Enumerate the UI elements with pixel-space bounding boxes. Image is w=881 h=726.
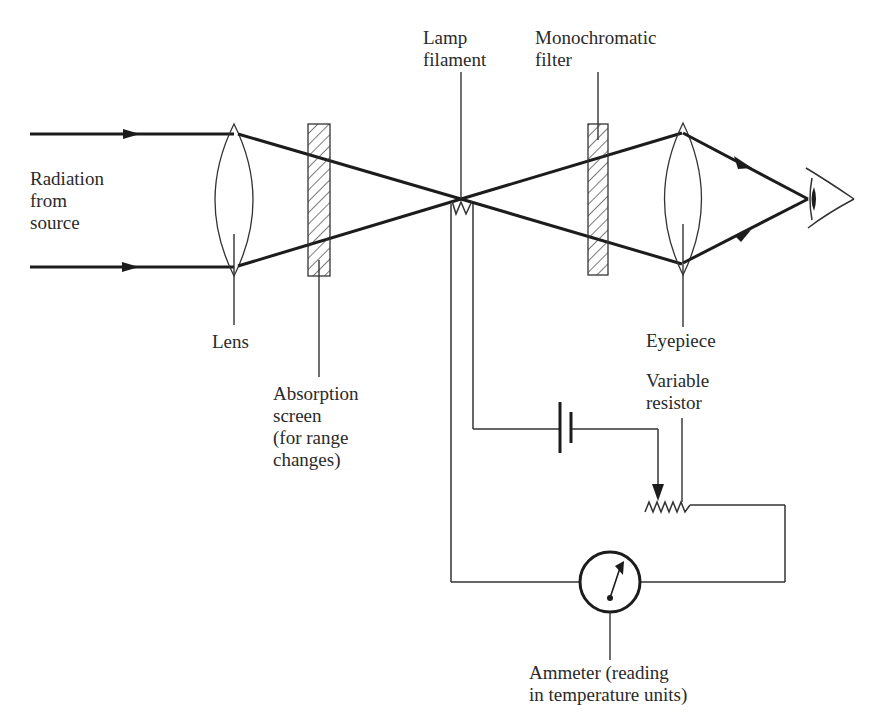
label-line: Lens — [212, 331, 249, 353]
label-line: filament — [423, 49, 486, 71]
label-line: filter — [535, 49, 656, 71]
optical-pyrometer-diagram: Radiation from source Lens Absorption sc… — [0, 0, 881, 726]
label-line: Ammeter (reading — [529, 662, 687, 684]
label-lens: Lens — [212, 331, 249, 353]
label-line: screen — [273, 405, 359, 427]
label-line: (for range — [273, 427, 359, 449]
label-line: Radiation — [30, 168, 104, 190]
converging-rays — [238, 134, 461, 266]
ammeter-icon — [451, 552, 640, 660]
battery-icon — [473, 402, 664, 501]
eyepiece-lens-icon — [665, 123, 702, 327]
label-line: Monochromatic — [535, 27, 656, 49]
absorption-screen-icon — [308, 124, 330, 377]
label-line: source — [30, 212, 104, 234]
label-line: resistor — [646, 392, 709, 414]
monochromatic-filter-icon — [588, 72, 608, 275]
label-eyepiece: Eyepiece — [646, 330, 716, 352]
lamp-filament-icon — [451, 72, 473, 582]
diagram-canvas — [0, 0, 881, 726]
objective-lens-icon — [215, 124, 253, 325]
label-monochromatic-filter: Monochromatic filter — [535, 27, 656, 71]
eye-icon — [806, 168, 854, 228]
label-variable-resistor: Variable resistor — [646, 370, 709, 414]
label-absorption-screen: Absorption screen (for range changes) — [273, 383, 359, 471]
label-line: Absorption — [273, 383, 359, 405]
label-line: Eyepiece — [646, 330, 716, 352]
label-ammeter: Ammeter (reading in temperature units) — [529, 662, 687, 706]
label-line: Variable — [646, 370, 709, 392]
label-radiation-from-source: Radiation from source — [30, 168, 104, 234]
diverging-rays — [461, 133, 682, 264]
label-line: in temperature units) — [529, 684, 687, 706]
label-line: from — [30, 190, 104, 212]
variable-resistor-icon — [640, 418, 785, 582]
label-lamp-filament: Lamp filament — [423, 27, 486, 71]
label-line: Lamp — [423, 27, 486, 49]
label-line: changes) — [273, 449, 359, 471]
